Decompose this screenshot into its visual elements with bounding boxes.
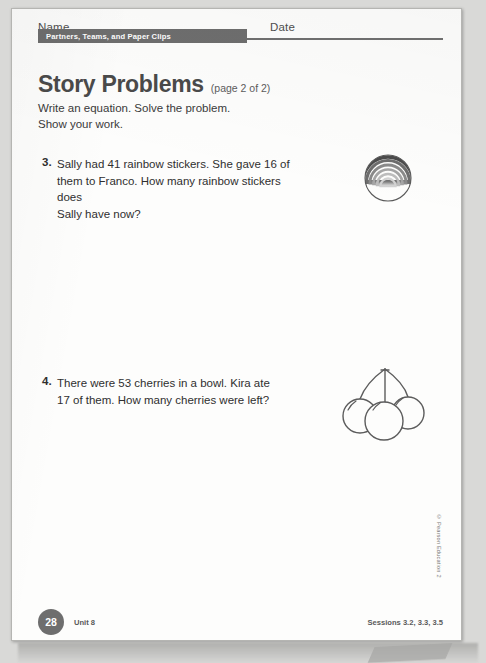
problem-item: 3. Sally had 41 rainbow stickers. She ga…: [42, 156, 304, 222]
page-title-row: Story Problems (page 2 of 2): [38, 71, 270, 98]
problem-text: Sally had 41 rainbow stickers. She gave …: [57, 156, 304, 222]
problem-number: 3.: [42, 156, 57, 222]
page-title: Story Problems: [38, 71, 204, 98]
worksheet-page: Name Date Partners, Teams, and Paper Cli…: [11, 8, 462, 641]
unit-label: Unit 8: [74, 618, 95, 627]
page-footer: 28 Unit 8 Sessions 3.2, 3.3, 3.5: [38, 609, 443, 635]
page-content: Name Date Partners, Teams, and Paper Cli…: [12, 9, 461, 640]
page-title-subtitle: (page 2 of 2): [211, 82, 271, 94]
unit-banner: Partners, Teams, and Paper Clips: [38, 29, 247, 43]
rainbow-sticker-icon: [362, 152, 414, 208]
problem-item: 4. There were 53 cherries in a bowl. Kir…: [42, 375, 304, 408]
unit-banner-label: Partners, Teams, and Paper Clips: [38, 32, 171, 41]
problem-number: 4.: [42, 375, 57, 408]
cherries-icon: [342, 361, 428, 447]
date-field-label: Date: [270, 21, 295, 33]
copyright-notice: © Pearson Education 2: [436, 514, 442, 578]
instructions-text: Write an equation. Solve the problem. Sh…: [38, 101, 230, 132]
page-number-badge: 28: [38, 609, 64, 635]
problem-text: There were 53 cherries in a bowl. Kira a…: [57, 375, 270, 408]
sessions-label: Sessions 3.2, 3.3, 3.5: [367, 618, 443, 627]
